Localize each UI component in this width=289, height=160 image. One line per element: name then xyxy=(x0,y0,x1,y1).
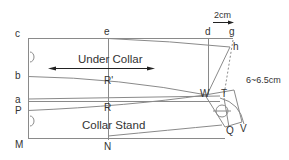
point-t-label: T xyxy=(221,89,227,99)
point-r-label: R xyxy=(104,103,111,113)
collar-stand-label: Collar Stand xyxy=(82,120,145,132)
shift-arrow-head xyxy=(228,21,234,25)
point-w-label: W xyxy=(200,89,209,99)
point-v-label: V xyxy=(240,124,247,134)
under-collar-outer-edge xyxy=(108,39,230,48)
collar-height-measurement: 6~6.5cm xyxy=(246,76,281,85)
point-p-label: P xyxy=(15,106,22,116)
grainline-arrow-left-head xyxy=(48,67,56,71)
dashed-line-g-t xyxy=(224,40,233,95)
point-a-label: a xyxy=(15,95,21,105)
point-r-prime-label: R' xyxy=(104,76,113,86)
under-collar-neckline-b xyxy=(28,77,207,96)
point-d-label: d xyxy=(205,27,211,37)
point-g-label: g xyxy=(229,27,235,37)
grainline-arrow-right-head xyxy=(147,67,155,71)
buttonhole-mark-upper xyxy=(30,52,34,62)
point-m-label: M xyxy=(15,140,23,150)
point-h-label: h xyxy=(233,42,239,52)
buttonhole-mark-lower xyxy=(30,116,34,126)
under-collar-label: Under Collar xyxy=(78,54,143,66)
point-n-label: N xyxy=(104,142,111,152)
shift-measurement: 2cm xyxy=(214,11,231,20)
point-e-label: e xyxy=(104,27,110,37)
point-b-label: b xyxy=(15,71,21,81)
point-c-label: c xyxy=(15,29,20,39)
point-q-label: Q xyxy=(226,126,234,136)
